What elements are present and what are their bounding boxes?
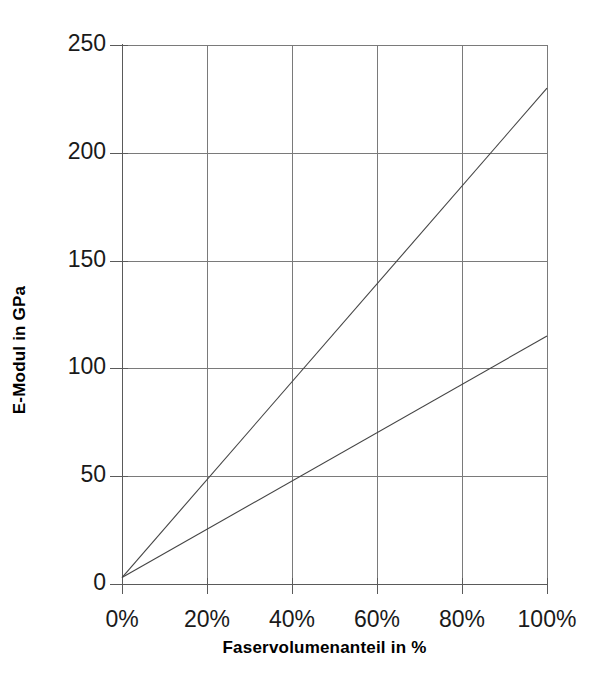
x-axis-title: Faservolumenanteil in % [0, 638, 605, 658]
data-series-line-0 [122, 88, 547, 577]
axis-layer [110, 44, 547, 593]
y-tick-label: 100 [40, 353, 106, 380]
chart-figure: 050100150200250 0%20%40%60%80%100% E-Mod… [0, 0, 605, 700]
y-axis-title-text: E-Modul in GPa [10, 286, 30, 414]
y-tick-label: 250 [40, 30, 106, 57]
data-series-layer [122, 88, 547, 577]
grid-layer [0, 0, 548, 584]
tick-marks-layer [110, 46, 548, 595]
y-tick-label: 150 [40, 246, 106, 273]
x-tick-label: 40% [247, 606, 337, 633]
x-tick-label: 100% [502, 606, 592, 633]
data-series-line-1 [122, 336, 547, 577]
x-axis-title-text: Faservolumenanteil in % [223, 638, 427, 658]
x-tick-label: 60% [332, 606, 422, 633]
y-axis-title: E-Modul in GPa [0, 0, 40, 700]
y-tick-label: 200 [40, 138, 106, 165]
y-tick-label: 50 [40, 461, 106, 488]
x-tick-label: 80% [417, 606, 507, 633]
x-tick-label: 0% [77, 606, 167, 633]
y-tick-label: 0 [40, 569, 106, 596]
x-tick-label: 20% [162, 606, 252, 633]
